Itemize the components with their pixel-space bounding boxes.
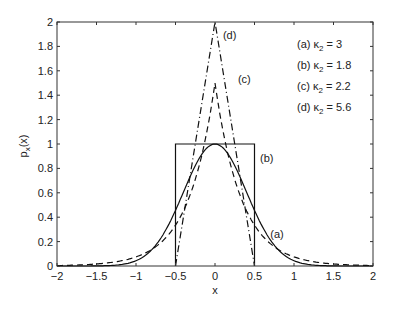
x-tick-label: 0.5	[247, 270, 262, 282]
legend-entry: (a) κ2 = 3	[297, 38, 342, 53]
curve-annotation: (a)	[270, 228, 283, 240]
y-tick-label: 0.6	[38, 187, 53, 199]
series-b-uniform	[176, 144, 255, 266]
x-tick-label: 0	[212, 270, 218, 282]
y-tick-label: 0.8	[38, 162, 53, 174]
y-tick-label: 1.8	[38, 40, 53, 52]
legend-entry: (b) κ2 = 1.8	[297, 59, 351, 74]
chart: −2−1.5−1−0.500.511.5200.20.40.60.811.21.…	[0, 0, 393, 309]
x-tick-label: 1.5	[326, 270, 341, 282]
svg-text:px(x): px(x)	[17, 135, 32, 158]
axis-ticks: −2−1.5−1−0.500.511.5200.20.40.60.811.21.…	[38, 16, 376, 282]
y-tick-label: 1.6	[38, 65, 53, 77]
x-tick-label: 2	[370, 270, 376, 282]
y-tick-label: 0.2	[38, 236, 53, 248]
legend-entry: (c) κ2 = 2.2	[297, 80, 351, 95]
x-tick-label: −1.5	[86, 270, 108, 282]
curve-annotation: (c)	[238, 73, 251, 85]
legend-entry: (d) κ2 = 5.6	[297, 101, 351, 116]
x-tick-label: 1	[291, 270, 297, 282]
curve-annotation: (b)	[260, 152, 273, 164]
y-tick-label: 0	[47, 260, 53, 272]
y-tick-label: 1.4	[38, 89, 53, 101]
x-tick-label: −0.5	[165, 270, 187, 282]
y-tick-label: 0.4	[38, 211, 53, 223]
x-tick-label: −1	[130, 270, 143, 282]
y-axis-label: px(x)	[17, 135, 32, 158]
y-tick-label: 1	[47, 138, 53, 150]
y-tick-label: 1.2	[38, 114, 53, 126]
series-a-gaussian	[57, 144, 373, 266]
curve-annotation: (d)	[223, 29, 236, 41]
y-tick-label: 2	[47, 16, 53, 28]
legend: (a) κ2 = 3(b) κ2 = 1.8(c) κ2 = 2.2(d) κ2…	[297, 38, 351, 116]
x-axis-label: x	[212, 284, 218, 296]
